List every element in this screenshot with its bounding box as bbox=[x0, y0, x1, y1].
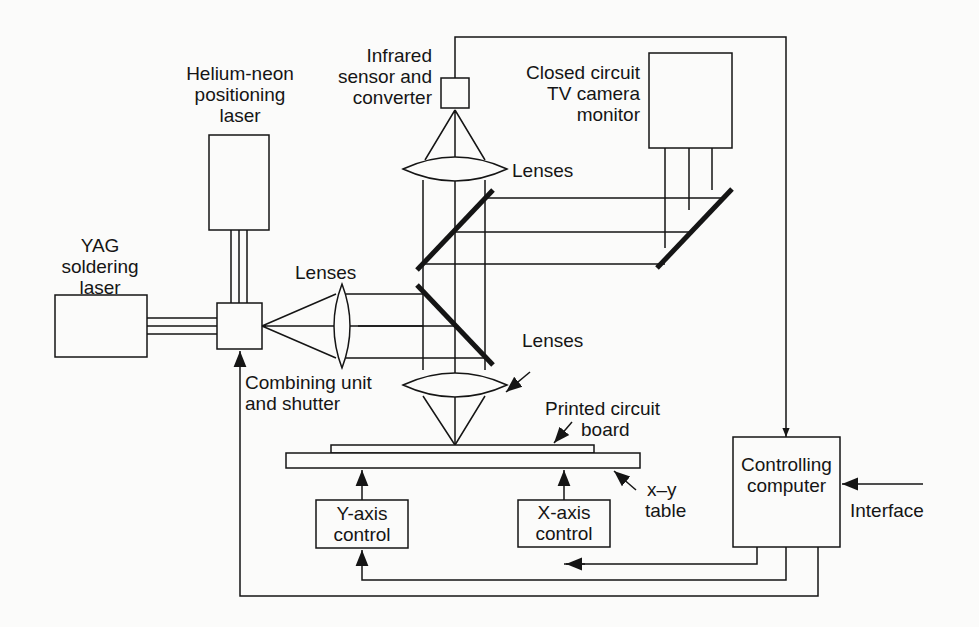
xy-table-label: x–y table bbox=[645, 479, 686, 521]
infrared-label-line: Infrared bbox=[320, 45, 432, 66]
upper-horizontal-beams bbox=[423, 198, 724, 264]
yag-label-line: laser bbox=[50, 277, 150, 298]
top-lens-icon bbox=[403, 157, 507, 181]
y-axis-label-line: Y-axis bbox=[316, 503, 408, 524]
x-axis-control-label: X-axis control bbox=[518, 502, 610, 544]
x-axis-label-line: X-axis bbox=[518, 502, 610, 523]
x-axis-label-line: control bbox=[518, 523, 610, 544]
yag-beams bbox=[147, 318, 217, 334]
cctv-label-line: TV camera bbox=[500, 83, 640, 104]
left-lens-icon bbox=[334, 284, 350, 368]
pcb-rect bbox=[331, 445, 594, 453]
cctv-label-line: monitor bbox=[500, 104, 640, 125]
hene-laser-box bbox=[209, 135, 269, 230]
left-horizontal-beams bbox=[346, 294, 485, 358]
y-axis-label-line: control bbox=[316, 524, 408, 545]
pcb-label-line: Printed circuit bbox=[545, 398, 660, 419]
xy-label-line: x–y bbox=[645, 479, 686, 500]
xy-table-pointer-arrow bbox=[614, 471, 636, 490]
lens-pointer-arrow bbox=[506, 372, 530, 392]
xy-label-line: table bbox=[645, 500, 686, 521]
combining-label-line: and shutter bbox=[245, 393, 372, 414]
cctv-label: Closed circuit TV camera monitor bbox=[500, 62, 640, 125]
lenses-bottom-label: Lenses bbox=[522, 330, 583, 351]
yag-label-line: YAG bbox=[50, 235, 150, 256]
infrared-label-line: sensor and bbox=[320, 66, 432, 87]
infrared-sensor-box bbox=[441, 78, 469, 108]
focus-cone bbox=[423, 396, 485, 445]
diagram-canvas bbox=[0, 0, 979, 627]
infrared-label-line: converter bbox=[320, 87, 432, 108]
yag-label-line: soldering bbox=[50, 256, 150, 277]
hene-beams bbox=[231, 230, 247, 303]
lenses-top-label: Lenses bbox=[512, 160, 573, 181]
pcb-label: Printed circuit board bbox=[545, 398, 660, 440]
hene-label-line: laser bbox=[175, 105, 305, 126]
computer-to-x-axis-line bbox=[564, 547, 757, 564]
cctv-monitor-box bbox=[649, 53, 732, 148]
computer-label-line: Controlling bbox=[733, 454, 840, 475]
y-axis-control-label: Y-axis control bbox=[316, 503, 408, 545]
lenses-left-label: Lenses bbox=[295, 262, 356, 283]
right-mirror bbox=[657, 189, 732, 268]
cctv-label-line: Closed circuit bbox=[500, 62, 640, 83]
hene-label-line: positioning bbox=[175, 84, 305, 105]
yag-laser-box bbox=[55, 295, 147, 357]
bottom-lens-icon bbox=[403, 373, 507, 397]
xy-table-rect bbox=[286, 453, 640, 468]
interface-label: Interface bbox=[850, 500, 924, 521]
hene-label: Helium-neon positioning laser bbox=[175, 63, 305, 126]
infrared-label: Infrared sensor and converter bbox=[320, 45, 432, 108]
combining-unit-label: Combining unit and shutter bbox=[245, 372, 372, 414]
yag-label: YAG soldering laser bbox=[50, 235, 150, 298]
combining-label-line: Combining unit bbox=[245, 372, 372, 393]
pcb-label-line: board bbox=[545, 419, 660, 440]
combining-unit-box bbox=[217, 303, 262, 349]
hene-label-line: Helium-neon bbox=[175, 63, 305, 84]
computer-label: Controlling computer bbox=[733, 454, 840, 496]
computer-label-line: computer bbox=[733, 475, 840, 496]
